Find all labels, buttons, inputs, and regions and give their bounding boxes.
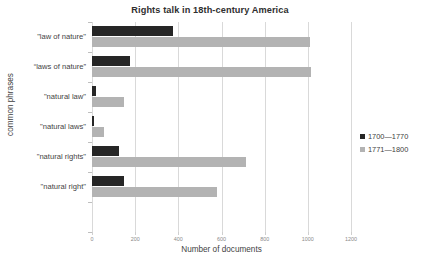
y-axis-tick: [88, 82, 92, 83]
category-label: "natural law": [4, 92, 86, 101]
x-axis-tick: [135, 232, 136, 235]
x-axis-tick: [92, 232, 93, 235]
x-axis-tick-label: 600: [202, 236, 242, 242]
bar: [92, 146, 119, 156]
bar-group: [92, 146, 351, 170]
y-axis-tick: [88, 142, 92, 143]
bar: [92, 37, 310, 47]
x-axis-tick: [308, 232, 309, 235]
x-axis-tick: [265, 232, 266, 235]
category-label: "natural right": [4, 182, 86, 191]
legend-label: 1700—1770: [368, 132, 408, 141]
bar: [92, 157, 246, 167]
category-label: "natural laws": [4, 122, 86, 131]
y-axis-tick: [88, 232, 92, 233]
legend-label: 1771—1800: [368, 145, 408, 154]
category-label: “laws of nature”: [4, 62, 86, 71]
bar-chart: Rights talk in 18th-century America "law…: [0, 0, 430, 269]
legend-swatch-icon: [360, 147, 365, 152]
bar-group: [92, 26, 351, 50]
bar-group: [92, 176, 351, 200]
bar-group: [92, 116, 351, 140]
bar: [92, 187, 217, 197]
bar-group: [92, 86, 351, 110]
bar: [92, 26, 173, 36]
x-axis-tick-label: 1200: [331, 236, 371, 242]
x-axis-tick: [351, 232, 352, 235]
gridline: [351, 22, 352, 232]
x-axis-tick-label: 200: [115, 236, 155, 242]
y-axis-title: common phrases: [6, 55, 15, 155]
bar: [92, 56, 130, 66]
x-axis-title: Number of documents: [92, 245, 351, 254]
bar: [92, 97, 124, 107]
bar: [92, 86, 96, 96]
y-axis-tick: [88, 172, 92, 173]
y-axis-tick: [88, 52, 92, 53]
bar: [92, 176, 124, 186]
plot-area: [92, 22, 351, 232]
legend-swatch-icon: [360, 134, 365, 139]
category-label: "law of nature": [4, 32, 86, 41]
legend-item[interactable]: 1771—1800: [360, 144, 408, 155]
y-axis-tick: [88, 202, 92, 203]
bar-group: [92, 56, 351, 80]
y-axis-tick: [88, 112, 92, 113]
chart-title: Rights talk in 18th-century America: [60, 5, 360, 15]
x-axis-tick: [222, 232, 223, 235]
x-axis-tick-label: 800: [245, 236, 285, 242]
chart-legend: 1700—17701771—1800: [360, 131, 408, 157]
x-axis-tick-label: 1000: [288, 236, 328, 242]
legend-item[interactable]: 1700—1770: [360, 131, 408, 142]
y-axis-tick: [88, 22, 92, 23]
bar: [92, 67, 311, 77]
x-axis-tick-label: 400: [158, 236, 198, 242]
category-label: "natural rights": [4, 152, 86, 161]
bar: [92, 116, 94, 126]
x-axis-tick: [178, 232, 179, 235]
bar: [92, 127, 104, 137]
x-axis-tick-label: 0: [72, 236, 112, 242]
